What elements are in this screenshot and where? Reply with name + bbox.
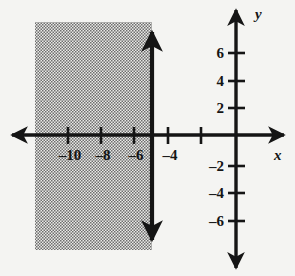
y-tick-label--4: –4	[209, 186, 224, 201]
y-tick-label--2: –2	[209, 159, 224, 174]
y-axis-label: y	[255, 7, 262, 22]
x-tick-label--4: –4	[163, 148, 178, 163]
x-tick-label--10: –10	[59, 148, 82, 163]
x-axis-label: x	[274, 148, 282, 163]
x-tick-label--8: –8	[96, 148, 111, 163]
y-tick-label-6: 6	[217, 46, 225, 61]
x-tick-label--6: –6	[129, 148, 144, 163]
inequality-graph-figure: –10 –8 –6 –4 6 4 2 –2 –4 –6 y x	[0, 0, 295, 276]
y-tick-label--6: –6	[209, 214, 224, 229]
y-tick-label-4: 4	[217, 74, 225, 89]
coordinate-plane-svg	[0, 0, 295, 276]
y-tick-label-2: 2	[217, 101, 225, 116]
